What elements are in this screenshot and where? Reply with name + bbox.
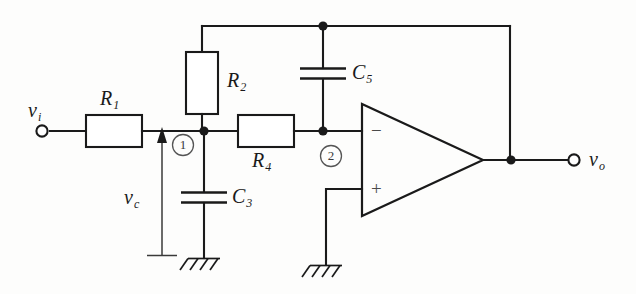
resistor-R1-letter: R bbox=[100, 87, 112, 109]
resistor-R2-letter: R bbox=[227, 69, 239, 91]
output-voltage-symbol: v bbox=[589, 148, 598, 170]
output-terminal-ring[interactable] bbox=[568, 154, 579, 165]
capacitor-voltage-label: vc bbox=[124, 187, 138, 207]
capacitor-C5-letter: C bbox=[352, 61, 365, 83]
resistor-R4-label: R4 bbox=[252, 150, 270, 170]
wire-noninverting-to-ground bbox=[326, 189, 362, 265]
resistor-R1-label: R1 bbox=[100, 88, 118, 108]
input-terminal-ring[interactable] bbox=[36, 125, 47, 136]
circuit-diagram: vi vo R1 R2 R4 C3 C5 vc 1 2 − + bbox=[0, 0, 636, 294]
ground-symbol-c3 bbox=[180, 259, 220, 271]
capacitor-C5-label: C5 bbox=[352, 62, 371, 82]
resistor-R2-subscript: 2 bbox=[240, 80, 246, 94]
junction-dot-node1 bbox=[199, 126, 208, 135]
capacitor-voltage-symbol: v bbox=[124, 186, 133, 208]
junction-dot-node2 bbox=[318, 126, 327, 135]
ground-symbol-opamp bbox=[302, 266, 342, 278]
resistor-R4-subscript: 4 bbox=[265, 160, 271, 174]
capacitor-C3-label: C3 bbox=[232, 186, 251, 206]
input-voltage-label: vi bbox=[28, 100, 40, 120]
output-voltage-label: vo bbox=[589, 149, 604, 169]
node-marker-1: 1 bbox=[173, 138, 193, 151]
capacitor-C3-subscript: 3 bbox=[246, 196, 252, 210]
output-voltage-subscript: o bbox=[599, 159, 605, 173]
input-voltage-subscript: i bbox=[38, 110, 41, 124]
node-marker-2: 2 bbox=[321, 149, 341, 162]
opamp-noninverting-input-sign: + bbox=[371, 179, 382, 198]
junction-dot-top-c5 bbox=[318, 21, 327, 30]
capacitor-C3-letter: C bbox=[232, 185, 245, 207]
opamp-inverting-input-sign: − bbox=[371, 121, 382, 140]
resistor-R4-body bbox=[238, 115, 294, 147]
resistor-R1-body bbox=[86, 115, 142, 147]
capacitor-voltage-subscript: c bbox=[134, 197, 139, 211]
capacitor-C5-subscript: 5 bbox=[366, 72, 372, 86]
resistor-R2-body bbox=[186, 52, 218, 114]
input-voltage-symbol: v bbox=[28, 99, 37, 121]
junction-dot-output bbox=[506, 155, 515, 164]
resistor-R2-label: R2 bbox=[227, 70, 245, 90]
resistor-R4-letter: R bbox=[252, 149, 264, 171]
resistor-R1-subscript: 1 bbox=[113, 98, 119, 112]
circuit-schematic-svg bbox=[0, 0, 636, 294]
